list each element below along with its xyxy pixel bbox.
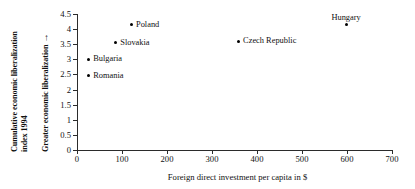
y-tick-label: 2 [67, 85, 71, 94]
y-tick-mark [73, 44, 77, 45]
y-tick-mark [73, 90, 77, 91]
x-tick-label: 500 [296, 155, 309, 164]
y-tick-label: 1.5 [60, 100, 71, 109]
y-tick-label: 4 [67, 25, 71, 34]
y-tick-mark [73, 135, 77, 136]
data-point-marker[interactable] [237, 40, 240, 43]
x-tick-label: 700 [386, 155, 399, 164]
y-tick-mark [73, 14, 77, 15]
y-axis-line [77, 14, 78, 150]
data-point-marker[interactable] [345, 23, 348, 26]
y-tick-label: 3 [67, 55, 71, 64]
y-axis-title-line-1: Cumulative economic liberalization [10, 31, 19, 152]
data-point-label: Hungary [331, 14, 360, 22]
scatter-chart: Cumulative economic liberalization index… [0, 0, 415, 189]
data-point-label: Slovakia [120, 39, 149, 47]
data-point-label: Bulgaria [93, 55, 122, 63]
data-point-marker[interactable] [87, 58, 90, 61]
x-tick-label: 0 [75, 155, 79, 164]
y-axis-title-line-2: index 1994 [20, 115, 29, 152]
y-tick-label: 0.5 [60, 131, 71, 140]
data-point-label: Czech Republic [243, 37, 296, 45]
y-tick-label: 3.5 [60, 40, 71, 49]
y-tick-mark [73, 105, 77, 106]
y-tick-label: 2.5 [60, 70, 71, 79]
plot-area: 00.511.522.533.544.5 0100200300400500600… [77, 14, 392, 150]
x-tick-label: 100 [116, 155, 129, 164]
data-point-marker[interactable] [130, 23, 133, 26]
up-arrow-icon: → [40, 34, 50, 45]
x-tick-label: 300 [206, 155, 219, 164]
y-tick-mark [73, 74, 77, 75]
y-tick-label: 4.5 [60, 10, 71, 19]
x-axis-title: Foreign direct investment per capita in … [0, 172, 415, 182]
y-axis-secondary-title: Greater economic liberalization→ [40, 34, 50, 152]
data-point-marker[interactable] [114, 41, 117, 44]
y-tick-label: 0 [67, 146, 71, 155]
data-point-marker[interactable] [87, 74, 90, 77]
x-tick-label: 200 [161, 155, 174, 164]
x-axis-line [77, 150, 392, 151]
x-axis-title-text: Foreign direct investment per capita in … [108, 172, 307, 182]
y-tick-label: 1 [67, 115, 71, 124]
data-point-label: Poland [136, 20, 159, 28]
y-tick-mark [73, 59, 77, 60]
y-tick-mark [73, 29, 77, 30]
data-point-label: Romania [93, 72, 123, 80]
x-tick-label: 600 [341, 155, 354, 164]
x-tick-label: 400 [251, 155, 264, 164]
y-axis-secondary-title-text: Greater economic liberalization [41, 44, 50, 152]
y-tick-mark [73, 120, 77, 121]
